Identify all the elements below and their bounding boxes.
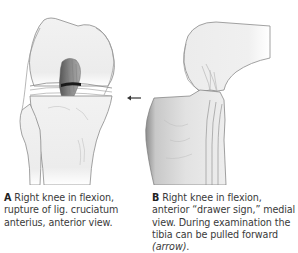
arrow-icon [127, 96, 141, 101]
panel-letter-b: B [152, 192, 159, 203]
caption-panel-a: ARight knee in flexion, rupture of lig. … [4, 192, 144, 229]
femur-shape [184, 22, 270, 92]
caption-b-text: Right knee in flexion, anterior “drawer … [152, 192, 295, 240]
panel-b-illustration [140, 0, 298, 185]
tibia-shape [30, 96, 112, 185]
panel-a-illustration [0, 0, 145, 185]
caption-panel-b: BRight knee in flexion, anterior “drawer… [152, 192, 298, 253]
caption-b-end: . [186, 241, 189, 252]
caption-b-italic: (arrow) [152, 241, 186, 252]
panel-letter-a: A [4, 192, 11, 203]
caption-a-text: Right knee in flexion, rupture of lig. c… [4, 192, 118, 228]
tibia-shape [146, 90, 226, 185]
